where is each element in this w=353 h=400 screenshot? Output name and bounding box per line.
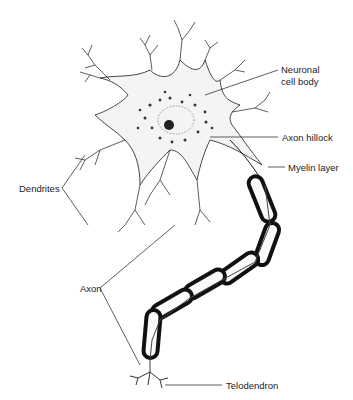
myelin-segments — [143, 174, 281, 358]
label-neuronal-cell-body-line1: Neuronal — [281, 64, 320, 75]
label-neuronal-cell-body-line2: cell body — [281, 76, 319, 87]
label-telodendron: Telodendron — [226, 380, 278, 391]
telodendron — [130, 372, 168, 388]
cell-body — [95, 60, 262, 185]
label-myelin-layer: Myelin layer — [288, 162, 339, 173]
label-axon-hillock: Axon hillock — [282, 132, 333, 143]
neuron-diagram — [0, 0, 353, 400]
label-axon: Axon — [80, 283, 102, 294]
label-dendrites: Dendrites — [19, 183, 60, 194]
